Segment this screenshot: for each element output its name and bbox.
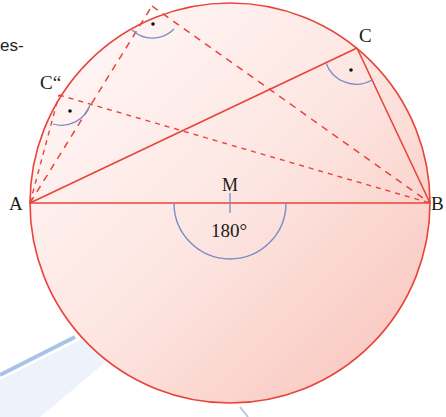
right-angle-dot-c-double-prime	[68, 109, 72, 113]
label-c: C	[359, 25, 372, 46]
thales-circle-diagram: A B M C C“ 180°	[0, 0, 446, 417]
label-a: A	[9, 193, 23, 214]
label-180-degrees: 180°	[211, 220, 247, 241]
right-angle-dot-c-prime	[151, 22, 155, 26]
right-angle-dot-c	[349, 68, 353, 72]
label-c-double-prime: C“	[40, 72, 61, 93]
label-m: M	[222, 175, 238, 195]
label-b: B	[431, 193, 444, 214]
